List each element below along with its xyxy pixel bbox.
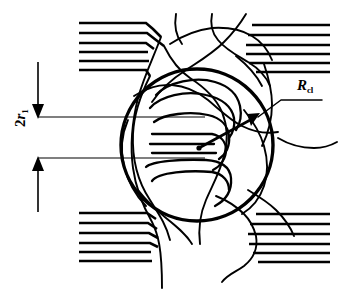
figure-container: Rcl 2r1 — [0, 0, 341, 305]
diameter-subscript: 1 — [20, 109, 30, 114]
radius-symbol: R — [297, 77, 307, 93]
diameter-symbol: r — [12, 114, 28, 120]
diameter-label: 2r1 — [13, 109, 30, 127]
diameter-prefix: 2 — [12, 120, 28, 128]
fibre-bundle-top-right — [246, 25, 330, 72]
radius-subscript: cl — [307, 85, 313, 95]
flow-line-diagram — [0, 0, 341, 305]
radius-label: Rcl — [297, 78, 313, 95]
dimension-arrow-top — [32, 62, 44, 119]
fibre-bundle-top-left — [79, 23, 164, 76]
fibre-bundle-bottom-right — [248, 214, 330, 262]
fibre-bundle-bottom-left — [79, 213, 158, 261]
dimension-arrow-bottom — [32, 156, 44, 212]
